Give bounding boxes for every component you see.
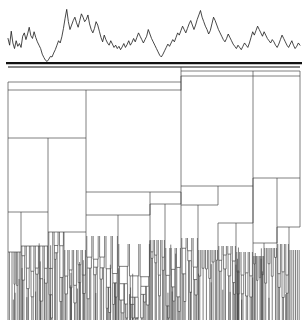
figure-background — [0, 0, 308, 324]
figure-container — [0, 0, 308, 324]
figure-canvas — [0, 0, 308, 324]
